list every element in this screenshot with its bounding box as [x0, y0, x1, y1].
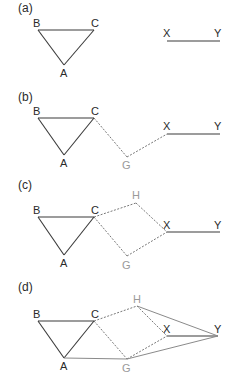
node-label-y: Y [214, 120, 222, 132]
node-label-c: C [91, 105, 99, 117]
panel-c: (c) B C A H G X Y [18, 178, 222, 271]
node-label-a: A [60, 67, 68, 79]
panel-d: (d) B C A H G X Y [18, 280, 222, 374]
edge-a-b [38, 118, 64, 155]
node-label-b: B [33, 17, 40, 29]
panel-label-d: (d) [18, 280, 33, 294]
edge-c-a [64, 30, 94, 65]
node-label-g: G [122, 362, 131, 374]
edge-a-b [38, 217, 64, 255]
node-label-y: Y [214, 219, 222, 231]
edge-g-y [127, 336, 218, 359]
node-label-c: C [91, 308, 99, 320]
panel-a: (a) B C A X Y [18, 1, 222, 79]
edge-g-x [127, 134, 167, 157]
node-label-b: B [33, 105, 40, 117]
node-label-x: X [163, 27, 171, 39]
edge-h-y [137, 306, 218, 336]
node-label-g: G [122, 259, 131, 271]
node-label-x: X [163, 323, 171, 335]
node-label-h: H [132, 189, 140, 201]
edge-c-g [94, 321, 127, 359]
node-label-g: G [122, 159, 131, 171]
edge-c-a [64, 321, 94, 358]
node-label-h: H [133, 293, 141, 305]
node-label-c: C [91, 17, 99, 29]
edge-g-x [127, 336, 167, 359]
edge-c-g [94, 118, 127, 157]
node-label-a: A [60, 257, 68, 269]
edge-c-a [64, 118, 94, 155]
node-label-a: A [60, 360, 68, 372]
diagram-canvas: (a) B C A X Y (b) B C A G X Y (c) [0, 0, 227, 382]
edge-c-h [94, 306, 137, 321]
panel-b: (b) B C A G X Y [18, 90, 222, 171]
node-label-y: Y [214, 27, 222, 39]
panel-label-a: (a) [18, 1, 33, 15]
node-label-b: B [33, 308, 40, 320]
node-label-a: A [60, 157, 68, 169]
edge-g-x [127, 232, 167, 256]
edge-a-b [38, 321, 64, 358]
node-label-c: C [91, 204, 99, 216]
edge-c-h [94, 203, 136, 217]
edge-a-g [64, 358, 127, 359]
panel-label-b: (b) [18, 90, 33, 104]
node-label-x: X [163, 219, 171, 231]
panel-label-c: (c) [18, 178, 32, 192]
edge-a-b [38, 30, 64, 65]
edge-c-g [94, 217, 127, 256]
node-label-x: X [163, 120, 171, 132]
node-label-y: Y [214, 323, 222, 335]
node-label-b: B [33, 204, 40, 216]
edge-c-a [64, 217, 94, 255]
